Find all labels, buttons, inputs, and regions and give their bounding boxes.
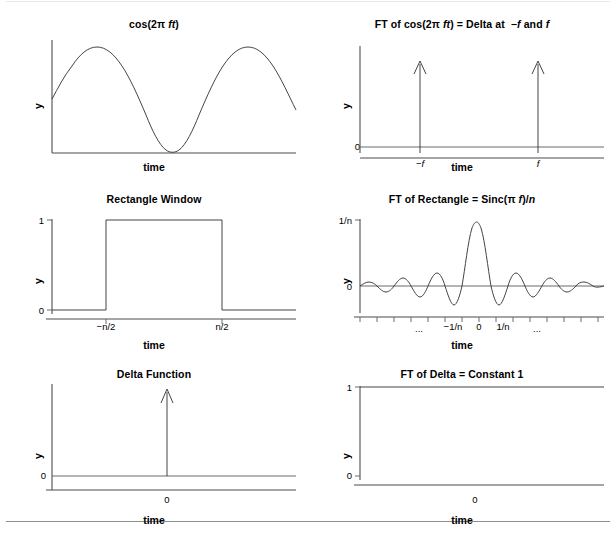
panel-delta-function: Delta Function y time 0 0 — [0, 356, 308, 531]
delta-arrow-zero — [161, 389, 173, 476]
panel-cos-time: cos(2π ft) y time — [0, 6, 308, 181]
sinc-x-tickmarks — [360, 317, 598, 322]
plot-cos-ft — [308, 6, 616, 181]
figure-sheet: cos(2π ft) y time FT of cos(2π ft) = Del… — [0, 0, 616, 535]
panel-rectangle-window: Rectangle Window y time 1 0 −n/2 n/2 — [0, 181, 308, 356]
sinc-curve — [360, 222, 604, 305]
delta-arrow-neg-f — [414, 61, 426, 153]
rectangle-pulse-curve — [52, 220, 296, 310]
panel-delta-ft: FT of Delta = Constant 1 y time 1 0 0 — [308, 356, 616, 531]
plot-rectangle-window — [0, 181, 308, 356]
top-divider-rule — [6, 1, 610, 2]
cosine-curve — [52, 47, 296, 152]
plot-delta-ft — [308, 356, 616, 531]
plot-cos-time — [0, 6, 308, 181]
panel-cos-ft: FT of cos(2π ft) = Delta at −f and f y t… — [308, 6, 616, 181]
plot-delta-function — [0, 356, 308, 531]
plot-rectangle-ft — [308, 181, 616, 356]
panel-rectangle-ft: FT of Rectangle = Sinc(π f)/n y time 1/n… — [308, 181, 616, 356]
delta-arrow-pos-f — [532, 61, 544, 153]
